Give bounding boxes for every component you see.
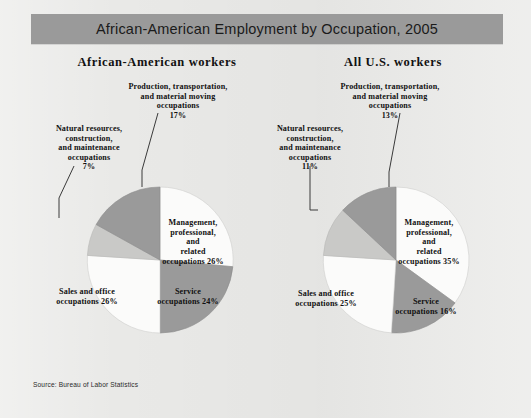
left-label-management: Management,professional,andrelatedoccupa… xyxy=(152,218,234,267)
left-label-service-pct: 24% xyxy=(202,297,219,306)
right-leader-lines xyxy=(270,110,470,230)
right-label-management-pct: 35% xyxy=(443,257,460,266)
right-label-sales-pct: 25% xyxy=(340,299,357,308)
left-panel-title: African-American workers xyxy=(62,55,252,70)
right-label-production-text: Production, transportation,and material … xyxy=(340,82,439,110)
right-panel-title: All U.S. workers xyxy=(318,55,468,70)
left-label-service-text: Serviceoccupations xyxy=(157,287,201,306)
left-leader-production xyxy=(142,113,158,187)
left-leader-lines xyxy=(40,110,240,230)
figure-title-bar: African-American Employment by Occupatio… xyxy=(31,14,503,44)
left-label-management-pct: 26% xyxy=(207,257,224,266)
left-label-service: Serviceoccupations 24% xyxy=(152,287,224,306)
right-label-sales: Sales and officeoccupations 25% xyxy=(276,289,376,308)
page-title: African-American Employment by Occupatio… xyxy=(96,21,438,37)
right-leader-production xyxy=(389,113,400,187)
left-label-production-text: Production, transportation,and material … xyxy=(128,82,227,110)
figure-canvas: African-American Employment by Occupatio… xyxy=(0,0,531,418)
right-label-management: Management,professional,andrelatedoccupa… xyxy=(388,218,470,267)
left-label-sales: Sales and officeoccupations 26% xyxy=(37,287,137,306)
left-label-sales-pct: 26% xyxy=(101,297,118,306)
right-leader-natural xyxy=(310,166,318,210)
source-note: Source: Bureau of Labor Statistics xyxy=(33,381,138,388)
right-label-service-pct: 16% xyxy=(440,307,457,316)
left-leader-natural xyxy=(59,166,74,218)
right-label-service-text: Serviceoccupations xyxy=(395,297,439,316)
right-label-service: Serviceoccupations 16% xyxy=(390,297,462,316)
